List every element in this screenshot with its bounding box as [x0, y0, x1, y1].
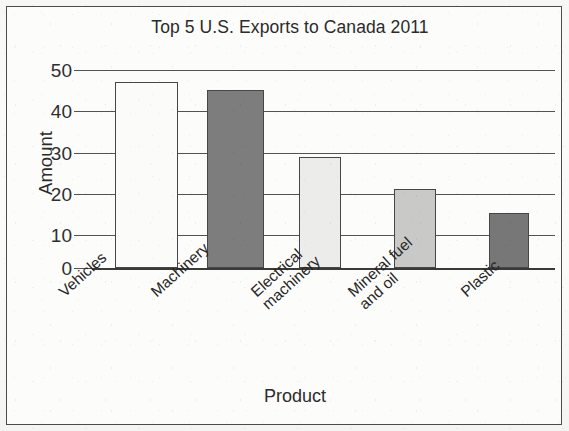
y-axis-title: Amount	[35, 103, 57, 223]
y-tick-mark-30	[74, 153, 92, 154]
y-tick-label-0: 0	[26, 259, 72, 278]
y-tick-label-50: 50	[26, 61, 72, 80]
y-tick-mark-40	[74, 111, 92, 112]
y-tick-mark-20	[74, 194, 92, 195]
chart-title: Top 5 U.S. Exports to Canada 2011	[90, 17, 490, 38]
y-tick-mark-50	[74, 70, 92, 71]
x-category-label-mineral-fuel-and-oil: Mineral fuel and oil	[345, 234, 427, 312]
bar-machinery[interactable]	[207, 90, 264, 268]
bar-vehicles[interactable]	[115, 82, 178, 268]
gridline-50	[92, 70, 555, 71]
y-tick-mark-10	[74, 235, 92, 236]
x-category-label-plastic: Plastic	[458, 257, 503, 300]
plot-area: Top 5 U.S. Exports to Canada 2011 50 40 …	[0, 0, 569, 431]
chart-figure: Top 5 U.S. Exports to Canada 2011 50 40 …	[0, 0, 569, 431]
x-axis-title: Product	[185, 386, 405, 407]
y-tick-label-10: 10	[26, 226, 72, 245]
